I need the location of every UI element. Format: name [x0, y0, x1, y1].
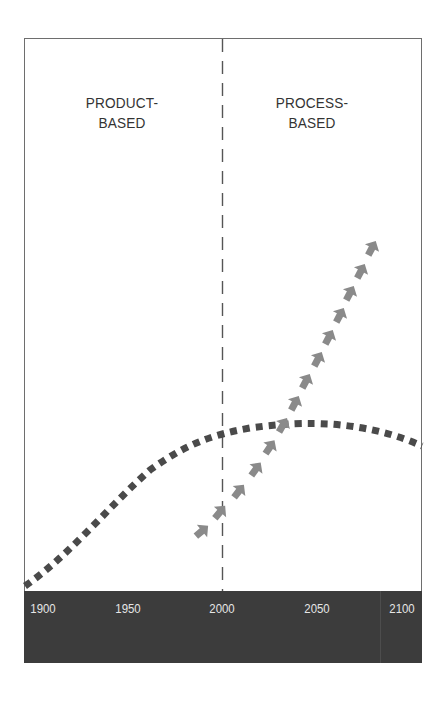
arrow-icon: [284, 392, 306, 414]
arrow-icon: [350, 260, 372, 282]
arrow-icon: [295, 370, 317, 392]
arrow-icon: [318, 326, 340, 348]
arrow-icon: [245, 458, 267, 480]
arrow-icon: [191, 520, 214, 543]
arrow-icon: [307, 348, 329, 370]
arrow-icon: [329, 304, 351, 326]
arrow-icon: [259, 436, 281, 458]
product-based-curve: [25, 423, 422, 586]
arrow-icon: [339, 282, 361, 304]
arrow-icon: [228, 480, 250, 502]
arrow-icon: [361, 237, 383, 259]
chart-canvas: [0, 0, 445, 702]
process-based-arrow-chain: [191, 237, 383, 542]
arrow-icon: [209, 501, 232, 524]
